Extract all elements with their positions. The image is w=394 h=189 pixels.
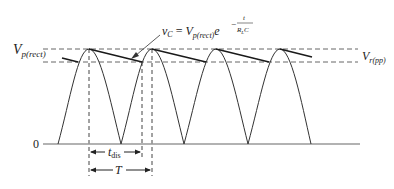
period-arrowhead-right — [145, 168, 151, 173]
vr-pp-label: Vr(pp) — [362, 49, 386, 65]
t-dis-arrowhead-right — [135, 150, 141, 155]
capacitor-voltage-equation: vC=Vp(rect)e — [162, 24, 220, 40]
equation-leader-line — [135, 35, 160, 56]
rectified-sine-waveform — [58, 49, 311, 144]
exponent-numerator: t — [243, 14, 246, 22]
exponent-denominator: RLC — [236, 26, 249, 35]
t-dis-arrowhead-left — [90, 150, 96, 155]
period-label: T — [115, 163, 123, 177]
exponent-minus: − — [231, 19, 236, 29]
rectifier-ripple-diagram: Vp(rect) Vr(pp) 0 vC=Vp(rect)e − t RLC t… — [0, 0, 394, 189]
capacitor-voltage-ripple — [62, 49, 312, 62]
period-arrowhead-left — [90, 168, 96, 173]
equation-leader-arrowhead — [131, 52, 139, 59]
vp-rect-label: Vp(rect) — [13, 42, 46, 59]
t-dis-label: tdis — [108, 145, 121, 160]
zero-label: 0 — [33, 137, 39, 151]
